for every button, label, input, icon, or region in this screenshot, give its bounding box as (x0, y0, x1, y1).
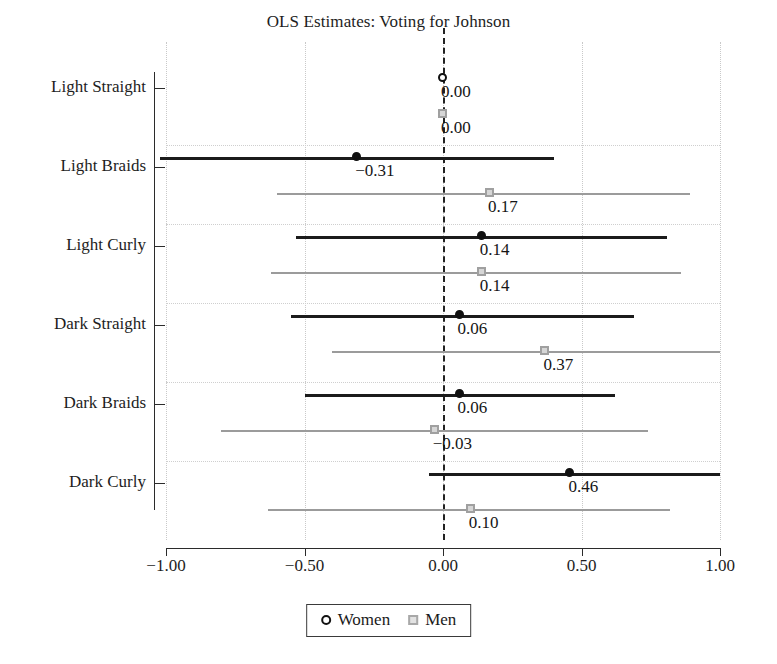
square-marker-icon (408, 615, 418, 625)
estimate-marker-men (485, 188, 494, 197)
x-axis-tick (166, 548, 167, 556)
estimate-value-label: 0.46 (568, 477, 598, 497)
x-axis-tick (443, 548, 444, 556)
legend-label-women: Women (338, 610, 390, 630)
x-axis-tick-label: 0.00 (398, 556, 488, 576)
y-axis-line (154, 72, 155, 510)
chart-title: OLS Estimates: Voting for Johnson (0, 12, 777, 32)
y-axis-tick (154, 404, 165, 405)
y-axis-tick-label: Dark Straight (54, 314, 146, 334)
estimate-value-label: 0.00 (441, 82, 471, 102)
y-axis-tick (154, 483, 165, 484)
y-axis-tick (154, 246, 165, 247)
x-axis-tick-label: −0.50 (260, 556, 350, 576)
x-axis-tick-label: −1.00 (121, 556, 211, 576)
gridline-vertical (305, 42, 307, 540)
y-axis-tick (154, 325, 165, 326)
y-axis-tick (154, 167, 165, 168)
estimate-value-label: 0.37 (543, 355, 573, 375)
estimate-value-label: 0.00 (441, 118, 471, 138)
estimate-value-label: 0.17 (488, 197, 518, 217)
estimate-value-label: −0.31 (355, 161, 394, 181)
estimate-marker-men (477, 267, 486, 276)
x-axis-tick (582, 548, 583, 556)
estimate-marker-men (430, 425, 439, 434)
y-axis-tick-label: Light Straight (51, 77, 146, 97)
estimate-marker-men (466, 504, 475, 513)
estimate-marker-men (438, 109, 447, 118)
circle-marker-icon (321, 615, 331, 625)
confidence-interval-bar (429, 473, 720, 476)
legend-entry-women: Women (321, 610, 390, 630)
x-axis-tick-label: 1.00 (675, 556, 765, 576)
coefficient-plot-figure: OLS Estimates: Voting for Johnson Women … (0, 0, 777, 664)
estimate-marker-women (455, 310, 464, 319)
zero-reference-line (443, 28, 445, 540)
estimate-value-label: 0.06 (458, 319, 488, 339)
estimate-marker-women (438, 73, 447, 82)
y-axis-tick-label: Light Curly (66, 235, 146, 255)
estimate-value-label: 0.10 (469, 513, 499, 533)
estimate-value-label: −0.03 (433, 434, 472, 454)
legend-label-men: Men (425, 610, 456, 630)
gridline-vertical (582, 42, 584, 540)
y-axis-tick-label: Dark Braids (63, 393, 146, 413)
confidence-interval-bar (277, 193, 690, 195)
estimate-marker-women (455, 389, 464, 398)
estimate-marker-women (477, 231, 486, 240)
y-axis-tick-label: Light Braids (61, 156, 146, 176)
gridline-vertical (166, 42, 168, 540)
y-axis-tick-label: Dark Curly (69, 472, 146, 492)
estimate-value-label: 0.06 (458, 398, 488, 418)
chart-legend: Women Men (306, 604, 472, 637)
confidence-interval-bar (332, 351, 720, 353)
estimate-value-label: 0.14 (480, 276, 510, 296)
x-axis-tick-label: 0.50 (537, 556, 627, 576)
legend-entry-men: Men (408, 610, 456, 630)
y-axis-tick (154, 88, 165, 89)
estimate-value-label: 0.14 (480, 240, 510, 260)
estimate-marker-men (540, 346, 549, 355)
x-axis-tick (720, 548, 721, 556)
x-axis-tick (305, 548, 306, 556)
gridline-vertical (720, 42, 722, 540)
